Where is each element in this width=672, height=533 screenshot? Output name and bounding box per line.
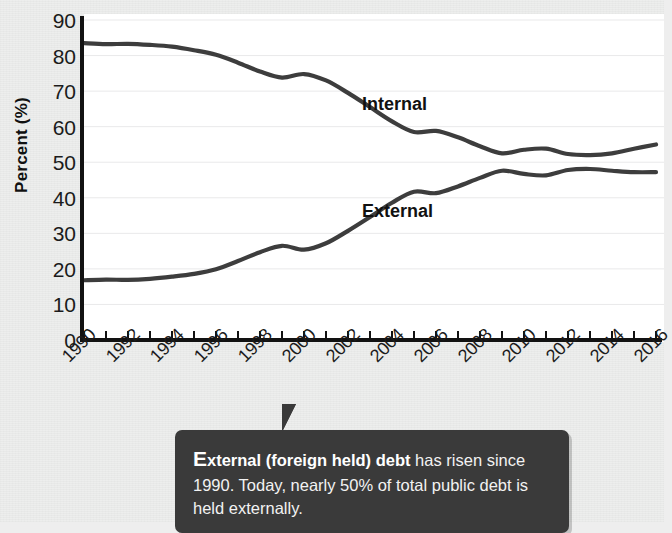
y-tick-label: 70 bbox=[34, 81, 76, 102]
y-tick-label: 20 bbox=[34, 259, 76, 280]
annotation-callout: External (foreign held) debt has risen s… bbox=[175, 430, 569, 533]
callout-pointer bbox=[282, 404, 310, 432]
series-label-internal: Internal bbox=[362, 94, 427, 115]
y-tick-label: 30 bbox=[34, 223, 76, 244]
y-tick-label: 90 bbox=[34, 10, 76, 31]
annotation-text: External (foreign held) debt has risen s… bbox=[193, 444, 551, 521]
series-lines bbox=[84, 43, 656, 280]
plot-area bbox=[84, 14, 664, 342]
annotation-lead-rest: xternal (foreign held) debt bbox=[207, 451, 411, 469]
chart-canvas bbox=[84, 14, 664, 342]
series-label-external: External bbox=[362, 201, 433, 222]
annotation-lead: External (foreign held) debt bbox=[193, 451, 411, 469]
y-tick-label: 10 bbox=[34, 294, 76, 315]
y-tick-label: 60 bbox=[34, 117, 76, 138]
y-axis-title: Percent (%) bbox=[12, 90, 32, 200]
y-tick-label: 0 bbox=[34, 330, 76, 351]
series-line-external bbox=[84, 169, 656, 280]
annotation-dropcap: E bbox=[193, 447, 207, 470]
y-axis-tick-labels: 9080706050403020100 bbox=[28, 0, 76, 360]
y-tick-label: 80 bbox=[34, 46, 76, 67]
y-tick-label: 50 bbox=[34, 152, 76, 173]
y-tick-label: 40 bbox=[34, 188, 76, 209]
gridlines bbox=[84, 20, 664, 304]
